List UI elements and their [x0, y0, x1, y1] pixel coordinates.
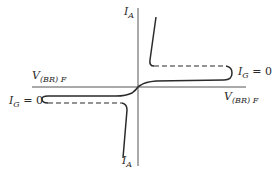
forward-blocking-curve	[138, 66, 232, 87]
y-axis-label-top: IA	[123, 5, 134, 20]
gate-current-label-left: IG = 0	[8, 94, 43, 109]
iv-characteristic-diagram: IA IA V(BR) F V(BR) F IG = 0 IG = 0	[0, 0, 274, 178]
gate-current-label-right: IG = 0	[237, 65, 272, 80]
forward-on-state-curve	[150, 17, 156, 66]
reverse-blocking-curve	[42, 87, 138, 103]
x-axis-label-right: V(BR) F	[224, 90, 259, 105]
reverse-on-state-curve	[122, 103, 127, 158]
x-axis-label-left: V(BR) F	[32, 69, 67, 84]
y-axis-label-bottom: IA	[121, 154, 132, 169]
